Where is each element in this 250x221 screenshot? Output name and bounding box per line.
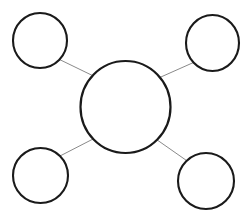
node-satellite-top-right[interactable] bbox=[186, 15, 239, 71]
diagram-canvas bbox=[0, 0, 250, 221]
edge-hub-to-top-left bbox=[60, 60, 95, 77]
edge-hub-to-bottom-left bbox=[60, 138, 95, 156]
edge-hub-to-top-right bbox=[158, 63, 194, 79]
node-satellite-bottom-left[interactable] bbox=[13, 148, 68, 203]
node-link-diagram bbox=[0, 0, 250, 221]
node-hub-central[interactable] bbox=[81, 61, 171, 153]
edge-hub-to-bottom-right bbox=[157, 140, 187, 161]
node-satellite-top-left[interactable] bbox=[13, 13, 67, 68]
node-satellite-bottom-right[interactable] bbox=[178, 153, 234, 209]
node-group bbox=[13, 13, 239, 209]
